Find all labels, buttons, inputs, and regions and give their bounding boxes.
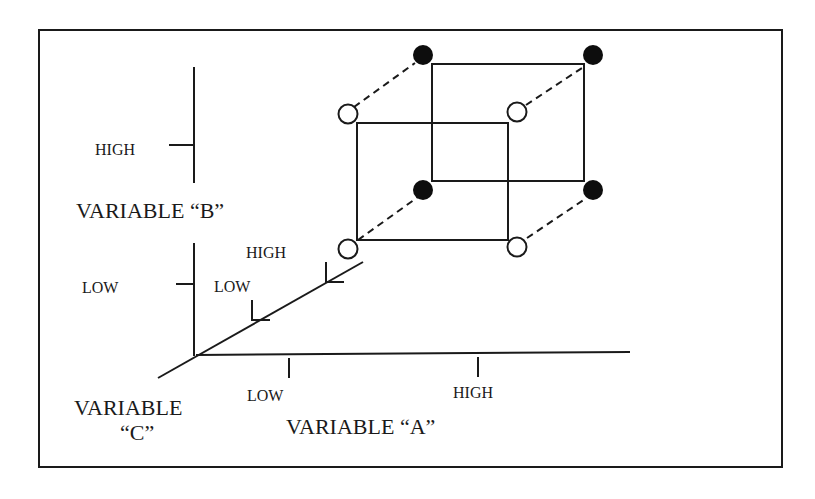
axis-c-high-label: HIGH (246, 244, 286, 261)
axis-b-high-label: HIGH (95, 141, 135, 158)
cube-depth-edges (354, 63, 585, 240)
axis-a-title: VARIABLE “A” (286, 414, 435, 439)
open-point-icon (339, 105, 358, 124)
filled-point-icon (583, 45, 603, 65)
filled-point-icon (583, 180, 603, 200)
open-point-icon (508, 103, 527, 122)
filled-point-icon (413, 45, 433, 65)
open-point-icon (508, 238, 527, 257)
axis-c (158, 262, 363, 378)
axis-c-title-line1: VARIABLE (74, 395, 182, 420)
design-cube (339, 45, 604, 259)
axis-a-low-label: LOW (247, 387, 284, 404)
axis-c-title-line2: “C” (120, 420, 154, 445)
factorial-design-diagram: HIGH VARIABLE “B” LOW LOW HIGH VARIABLE … (0, 0, 815, 499)
open-point-icon (339, 240, 358, 259)
filled-point-icon (413, 180, 433, 200)
axis-c-low-label: LOW (214, 278, 251, 295)
axis-b-low-label: LOW (82, 279, 119, 296)
axis-b-title: VARIABLE “B” (76, 198, 224, 223)
axis-a-high-label: HIGH (453, 384, 493, 401)
axis-a (196, 352, 630, 378)
axis-c-high-tick (326, 262, 344, 282)
